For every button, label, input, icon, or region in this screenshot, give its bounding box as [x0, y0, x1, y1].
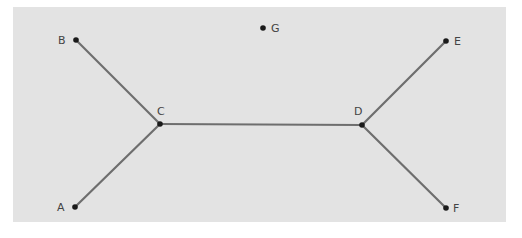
edge-d-f	[362, 125, 446, 208]
node-dot	[443, 38, 449, 44]
node-label: E	[454, 35, 461, 48]
node-label: B	[58, 34, 66, 47]
graph-canvas: ABCDEFG	[0, 0, 522, 238]
node-b: B	[58, 34, 79, 47]
node-dot	[73, 37, 79, 43]
edge-b-c	[76, 40, 160, 124]
node-dot	[72, 204, 78, 210]
node-label: F	[453, 202, 459, 215]
node-label: D	[354, 105, 362, 118]
node-label: C	[157, 105, 165, 118]
node-label: A	[57, 201, 65, 214]
node-dot	[260, 25, 266, 31]
node-label: G	[271, 22, 280, 35]
node-a: A	[57, 201, 78, 214]
node-dot	[443, 205, 449, 211]
edge-d-e	[362, 41, 446, 125]
nodes-layer: ABCDEFG	[57, 22, 461, 215]
edge-c-d	[160, 124, 362, 125]
node-g: G	[260, 22, 279, 35]
edges-layer	[75, 40, 446, 208]
node-dot	[157, 121, 163, 127]
edge-a-c	[75, 124, 160, 207]
node-e: E	[443, 35, 461, 48]
node-dot	[359, 122, 365, 128]
node-f: F	[443, 202, 459, 215]
